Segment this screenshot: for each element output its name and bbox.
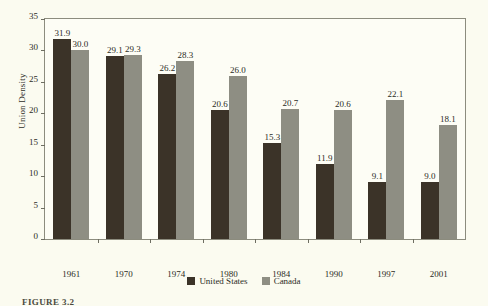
bar-canada-1990[interactable] — [334, 110, 352, 239]
x-axis-tick — [413, 239, 414, 243]
bar-canada-1980[interactable] — [229, 76, 247, 239]
bar-value-label: 31.9 — [42, 28, 82, 38]
bar-canada-1984[interactable] — [281, 109, 299, 239]
bar-value-label: 26.0 — [218, 65, 258, 75]
y-tick-label: 20 — [29, 106, 38, 115]
legend-label-canada: Canada — [274, 276, 301, 286]
bar-canada-1970[interactable] — [124, 55, 142, 239]
bar-value-label: 18.1 — [428, 114, 468, 124]
y-tick-mark — [41, 82, 45, 83]
figure-container: Union Density 05101520253035196131.930.0… — [0, 0, 488, 306]
y-tick-mark — [41, 19, 45, 20]
y-tick-mark — [41, 145, 45, 146]
y-tick-label: 5 — [34, 201, 39, 210]
y-tick-mark — [41, 208, 45, 209]
bar-canada-2001[interactable] — [439, 125, 457, 239]
bar-united-states-1984[interactable] — [263, 143, 281, 239]
bar-value-label: 20.6 — [323, 99, 363, 109]
bar-value-label: 29.3 — [113, 44, 153, 54]
y-axis-title: Union Density — [17, 41, 27, 161]
y-tick-mark — [41, 50, 45, 51]
plot-area: 05101520253035196131.930.0197029.129.319… — [44, 18, 466, 240]
y-tick-label: 25 — [29, 75, 38, 84]
y-tick-mark — [41, 113, 45, 114]
bar-canada-1974[interactable] — [176, 61, 194, 239]
bar-united-states-1980[interactable] — [211, 110, 229, 239]
bar-canada-1997[interactable] — [386, 100, 404, 239]
bar-canada-1961[interactable] — [71, 50, 89, 239]
y-tick-label: 30 — [29, 43, 38, 52]
x-axis-tick — [150, 239, 151, 243]
x-axis-tick — [98, 239, 99, 243]
figure-caption: FIGURE 3.2 — [22, 297, 75, 306]
legend-swatch-canada — [262, 277, 270, 285]
bar-united-states-1974[interactable] — [158, 74, 176, 239]
x-axis-tick — [203, 239, 204, 243]
y-tick-label: 0 — [34, 232, 39, 241]
bar-united-states-1961[interactable] — [53, 39, 71, 240]
bar-united-states-2001[interactable] — [421, 182, 439, 239]
x-axis-tick — [360, 239, 361, 243]
bar-value-label: 28.3 — [165, 50, 205, 60]
y-tick-label: 15 — [29, 138, 38, 147]
legend-entry-united-states[interactable]: United States — [187, 276, 247, 286]
y-tick-label: 10 — [29, 169, 38, 178]
x-axis-tick — [308, 239, 309, 243]
y-tick-mark — [41, 239, 45, 240]
y-tick-mark — [41, 176, 45, 177]
bar-value-label: 20.7 — [270, 98, 310, 108]
bar-united-states-1997[interactable] — [368, 182, 386, 239]
bar-united-states-1970[interactable] — [106, 56, 124, 239]
x-axis-tick — [255, 239, 256, 243]
legend-entry-canada[interactable]: Canada — [262, 276, 301, 286]
bar-united-states-1990[interactable] — [316, 164, 334, 239]
bar-value-label: 22.1 — [375, 89, 415, 99]
chart-legend: United States Canada — [0, 276, 488, 286]
legend-swatch-united-states — [187, 277, 195, 285]
legend-label-united-states: United States — [199, 276, 247, 286]
y-tick-label: 35 — [29, 12, 38, 21]
